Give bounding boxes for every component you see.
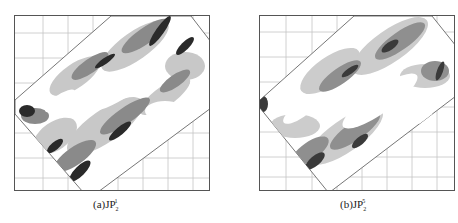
caption-b: (b)JP25 (340, 198, 365, 212)
map-canvas-b (260, 16, 455, 191)
map-panel-b (259, 15, 455, 191)
caption-a-text: (a)JP (93, 198, 116, 210)
caption-b-subscript: 2 (363, 206, 366, 212)
caption-a: (a)JP21 (93, 198, 118, 212)
survey-area-b (260, 16, 455, 191)
caption-b-superscript: 5 (362, 198, 365, 204)
caption-a-superscript: 1 (115, 198, 118, 204)
map-panel-a (14, 15, 210, 191)
caption-a-subscript: 2 (116, 206, 119, 212)
map-canvas-a (15, 16, 210, 191)
caption-b-text: (b)JP (340, 198, 363, 210)
